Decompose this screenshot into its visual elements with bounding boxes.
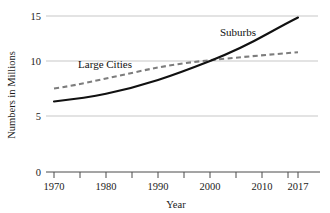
x-tick-label-1970: 1970 (44, 181, 65, 192)
x-tick-marks (54, 172, 298, 178)
y-tick-label-15: 15 (31, 11, 42, 22)
y-tick-label-10: 10 (31, 56, 42, 67)
x-axis-title: Year (166, 199, 186, 210)
x-tick-label-1980: 1980 (96, 181, 117, 192)
series-label-large-cities: Large Cities (78, 58, 132, 70)
y-tick-label-0: 0 (36, 167, 41, 178)
x-tick-label-2017: 2017 (288, 181, 309, 192)
x-tick-label-2000: 2000 (200, 181, 221, 192)
x-tick-label-1990: 1990 (148, 181, 169, 192)
line-chart: 15 10 5 0 1970 1980 1990 2000 2010 2017 … (0, 0, 330, 213)
chart-canvas: 15 10 5 0 1970 1980 1990 2000 2010 2017 … (0, 0, 330, 213)
y-axis-title: Numbers in Millions (6, 51, 17, 139)
x-tick-label-2010: 2010 (252, 181, 273, 192)
y-tick-label-5: 5 (36, 111, 41, 122)
series-label-suburbs: Suburbs (220, 26, 256, 38)
